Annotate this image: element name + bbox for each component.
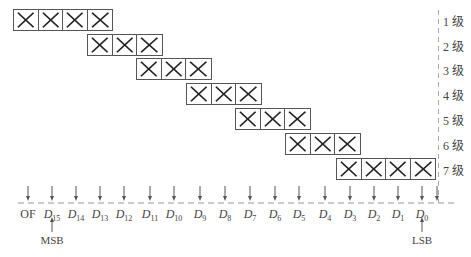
cross-cell-icon (236, 109, 261, 129)
cross-cell-icon (337, 159, 362, 179)
bit-label-d8: D8 (219, 207, 232, 223)
stage-label-6: 6 级 (443, 136, 464, 154)
bit-label-d1: D1 (392, 207, 405, 223)
stage-label-5: 5 级 (443, 111, 464, 129)
bit-label-d13: D13 (92, 207, 109, 223)
down-arrow-icon (26, 186, 30, 201)
stage-label-1: 1 级 (443, 12, 464, 30)
bit-label-d0: D0 (416, 207, 429, 223)
cross-cell-icon (186, 59, 211, 79)
down-arrow-icon (273, 186, 277, 201)
down-arrow-icon (148, 186, 152, 201)
cross-cell-icon (137, 59, 162, 79)
stage-label-7: 7 级 (443, 161, 464, 179)
down-arrow-icon (223, 186, 227, 201)
bit-label-d2: D2 (368, 207, 381, 223)
stage-block-2 (87, 34, 163, 56)
cross-cell-icon (286, 134, 311, 154)
cross-cell-icon (39, 10, 64, 30)
down-arrow-icon (323, 186, 327, 201)
bit-label-d4: D4 (319, 207, 332, 223)
stage-block-4 (186, 83, 262, 105)
bit-label-d10: D10 (166, 207, 183, 223)
down-arrow-icon (172, 186, 176, 201)
stage-block-6 (285, 133, 361, 155)
down-arrow-icon (198, 186, 202, 201)
bit-label-d9: D9 (194, 207, 207, 223)
bit-label-d14: D14 (68, 207, 85, 223)
down-arrow-icon (122, 186, 126, 201)
bit-label-d6: D6 (269, 207, 282, 223)
bit-label-d15: D15 (44, 207, 61, 223)
stage-label-2: 2 级 (443, 37, 464, 55)
down-arrow-icon (50, 186, 54, 201)
down-arrow-icon (420, 186, 424, 201)
cross-cell-icon (88, 10, 113, 30)
stage-block-7 (336, 158, 436, 180)
cross-cell-icon (386, 159, 411, 179)
bit-label-d12: D12 (116, 207, 133, 223)
down-arrow-icon (372, 186, 376, 201)
cross-cell-icon (137, 35, 162, 55)
pipeline-bit-diagram: 1 级2 级3 级4 级5 级6 级7 级 OFD15D14D13D12D11D… (0, 0, 471, 257)
cross-cell-icon (63, 10, 88, 30)
stage-block-5 (235, 108, 311, 130)
cross-cell-icon (261, 109, 286, 129)
stage-block-3 (136, 58, 212, 80)
bit-label-d11: D11 (142, 207, 158, 223)
down-arrow-icon (74, 186, 78, 201)
down-arrow-icon (348, 186, 352, 201)
cross-cell-icon (311, 134, 336, 154)
cross-cell-icon (212, 84, 237, 104)
cross-cell-icon (14, 10, 39, 30)
stage-label-4: 4 级 (443, 86, 464, 104)
lsb-label: LSB (412, 234, 432, 246)
stage-label-3: 3 级 (443, 61, 464, 79)
cross-cell-icon (285, 109, 310, 129)
msb-label: MSB (40, 234, 63, 246)
cross-cell-icon (411, 159, 436, 179)
down-arrow-icon (297, 186, 301, 201)
down-arrow-icon (248, 186, 252, 201)
bit-arrows (26, 186, 439, 201)
bit-label-of: OF (20, 207, 35, 222)
cross-cell-icon (335, 134, 360, 154)
stage-block-1 (13, 9, 113, 31)
bit-label-d5: D5 (293, 207, 306, 223)
bit-label-d3: D3 (344, 207, 357, 223)
cross-cell-icon (113, 35, 138, 55)
cross-cell-icon (362, 159, 387, 179)
cross-cell-icon (187, 84, 212, 104)
bit-label-d7: D7 (244, 207, 257, 223)
down-arrow-icon (396, 186, 400, 201)
cross-cell-icon (88, 35, 113, 55)
cross-cell-icon (162, 59, 187, 79)
cross-cell-icon (236, 84, 261, 104)
down-arrow-icon (98, 186, 102, 201)
